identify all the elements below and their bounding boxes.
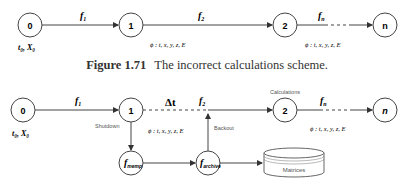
svg-text:fn: fn bbox=[320, 95, 327, 107]
svg-text:ϕ : t, x, y, z, E: ϕ : t, x, y, z, E bbox=[148, 127, 184, 134]
svg-text:ϕ : t, x, y, z, E: ϕ : t, x, y, z, E bbox=[305, 41, 341, 48]
svg-text:Calculations: Calculations bbox=[270, 89, 300, 95]
initial-conditions: t₀, X₀ bbox=[12, 129, 29, 138]
svg-text:Shutdown: Shutdown bbox=[95, 123, 119, 129]
svg-text:n: n bbox=[382, 21, 388, 31]
svg-text:fn: fn bbox=[318, 10, 325, 22]
svg-text:Matrices: Matrices bbox=[283, 167, 306, 173]
figure-number: Figure 1.71 bbox=[86, 58, 146, 72]
figure-caption-text: The incorrect calculations scheme. bbox=[154, 58, 328, 72]
initial-conditions: t₀, X₀ bbox=[18, 43, 35, 52]
matrices-database-icon: Matrices bbox=[264, 148, 324, 177]
svg-text:0: 0 bbox=[27, 21, 32, 31]
figure-caption: Figure 1.71The incorrect calculations sc… bbox=[0, 58, 414, 73]
svg-text:2: 2 bbox=[282, 21, 287, 31]
svg-text:1: 1 bbox=[128, 106, 133, 116]
svg-text:f1: f1 bbox=[80, 10, 86, 22]
svg-text:f1: f1 bbox=[75, 95, 81, 107]
bottom-diagram: 0 1 2 n f1 Δt f2 fn Calculations Shutdow… bbox=[11, 89, 397, 177]
svg-text:2: 2 bbox=[282, 106, 287, 116]
svg-text:1: 1 bbox=[128, 21, 133, 31]
svg-text:n: n bbox=[382, 106, 388, 116]
delta-t-label: Δt bbox=[165, 96, 176, 108]
diagram-canvas: 0 1 2 n f1 f2 fn t₀, X₀ ϕ : t, x, y, z, … bbox=[0, 0, 414, 183]
svg-text:Backout: Backout bbox=[214, 125, 234, 131]
svg-text:f2: f2 bbox=[199, 95, 205, 107]
svg-text:ϕ : t, x, y, z, E: ϕ : t, x, y, z, E bbox=[310, 125, 346, 132]
svg-text:ϕ : t, x, y, z, E: ϕ : t, x, y, z, E bbox=[150, 41, 186, 48]
svg-text:0: 0 bbox=[20, 106, 25, 116]
top-diagram: 0 1 2 n f1 f2 fn t₀, X₀ ϕ : t, x, y, z, … bbox=[18, 10, 397, 52]
svg-text:f2: f2 bbox=[198, 10, 204, 22]
